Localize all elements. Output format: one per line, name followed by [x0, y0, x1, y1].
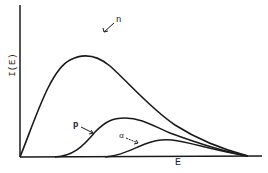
- label-p: p: [73, 120, 78, 130]
- label-alpha: α: [119, 131, 124, 140]
- chart-plot: [0, 0, 268, 173]
- curve-alpha: [105, 140, 248, 157]
- arrow-p-icon: [81, 127, 93, 134]
- y-axis-label: I(E): [8, 51, 18, 79]
- arrow-n-icon: [103, 23, 114, 32]
- curve-p: [55, 118, 248, 157]
- curve-n: [20, 56, 248, 157]
- x-axis-label: E: [175, 157, 181, 168]
- label-n: n: [116, 15, 121, 25]
